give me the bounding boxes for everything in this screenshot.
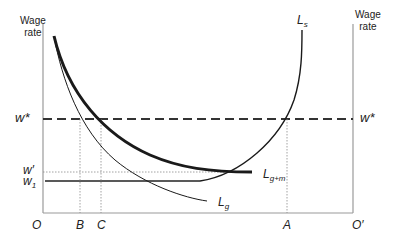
- left-axis-title-line1: Wage: [20, 15, 46, 27]
- right-axis-title: Wage rate: [355, 9, 381, 33]
- C-label: C: [97, 219, 106, 231]
- Ls-label-base: L: [297, 13, 304, 27]
- Lg-label: Lg: [218, 196, 229, 213]
- Lg-label-sub: g: [225, 202, 229, 211]
- w1-label-base: w: [23, 174, 32, 188]
- right-axis-title-line1: Wage: [355, 9, 381, 21]
- Lgm-label-base: L: [263, 167, 270, 181]
- Ls-label-sub: s: [304, 20, 308, 29]
- Lg-label-base: L: [218, 195, 225, 209]
- left-axis-title-line2: rate: [20, 27, 46, 39]
- Lg-plus-m-curve: [54, 36, 252, 172]
- origin-right-label: O′: [352, 219, 364, 231]
- origin-left-label: O: [32, 219, 41, 231]
- w-star-right-label: w*: [360, 112, 374, 124]
- A-label: A: [283, 219, 291, 231]
- w1-label: w1: [23, 175, 36, 192]
- B-label: B: [76, 219, 84, 231]
- w-star-left-label: w*: [15, 112, 29, 124]
- Ls-label: Ls: [297, 14, 308, 31]
- right-axis-title-line2: rate: [355, 21, 381, 33]
- left-axis-title: Wage rate: [20, 15, 46, 39]
- Lgm-label-sub: g+m: [270, 174, 286, 183]
- w1-label-sub: 1: [32, 181, 36, 190]
- Lgm-label: Lg+m: [263, 168, 285, 185]
- labor-market-diagram: [0, 0, 395, 243]
